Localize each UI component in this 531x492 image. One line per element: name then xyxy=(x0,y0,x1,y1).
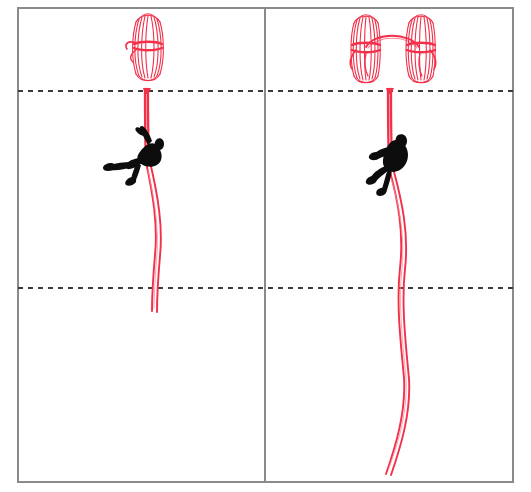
rappel-diagram-svg xyxy=(0,0,531,492)
diagram-canvas xyxy=(0,0,531,492)
